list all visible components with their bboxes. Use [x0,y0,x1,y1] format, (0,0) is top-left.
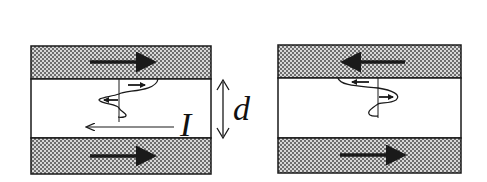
diagram-canvas: I d [0,0,487,182]
right-panel-antiparallel [278,45,461,173]
thickness-indicator: d [217,80,251,138]
left-panel-parallel: I [31,46,211,174]
current-label: I [179,106,193,143]
thickness-label: d [233,90,251,127]
